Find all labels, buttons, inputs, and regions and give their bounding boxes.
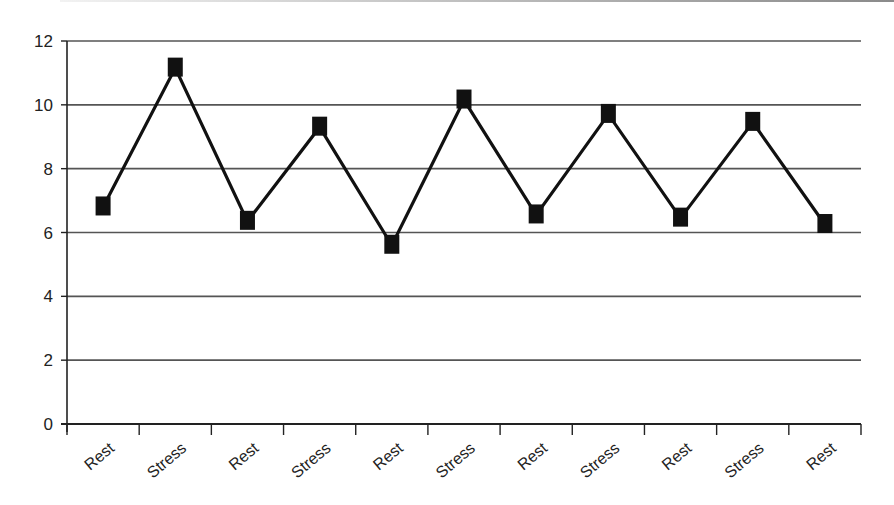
data-series xyxy=(96,58,833,254)
line-chart: 024681012 RestStressRestStressRestStress… xyxy=(0,0,894,505)
x-tick-label: Rest xyxy=(659,439,696,474)
x-tick-label: Rest xyxy=(225,439,262,474)
x-tick-label: Stress xyxy=(721,439,767,481)
data-point-marker xyxy=(240,211,255,230)
x-tick-label: Rest xyxy=(370,439,407,474)
data-point-marker xyxy=(817,214,832,233)
x-tick-label: Stress xyxy=(288,439,334,481)
data-point-marker xyxy=(312,117,327,136)
data-point-marker xyxy=(673,208,688,227)
data-point-marker xyxy=(457,90,472,109)
data-point-marker xyxy=(96,196,111,215)
y-tick-label: 12 xyxy=(34,32,53,51)
x-tick-label: Stress xyxy=(577,439,623,481)
data-point-marker xyxy=(384,235,399,254)
x-tick-label: Rest xyxy=(803,439,840,474)
y-axis-ticks: 024681012 xyxy=(34,32,67,434)
x-tick-label: Stress xyxy=(432,439,478,481)
y-tick-label: 6 xyxy=(44,224,53,243)
y-tick-label: 0 xyxy=(44,415,53,434)
x-tick-label: Rest xyxy=(81,439,118,474)
data-point-marker xyxy=(601,104,616,123)
x-axis-ticks: RestStressRestStressRestStressRestStress… xyxy=(67,424,861,481)
y-tick-label: 2 xyxy=(44,351,53,370)
data-point-marker xyxy=(529,204,544,223)
data-point-marker xyxy=(745,112,760,131)
x-tick-label: Rest xyxy=(514,439,551,474)
x-tick-label: Stress xyxy=(144,439,190,481)
y-tick-label: 4 xyxy=(44,287,53,306)
data-point-marker xyxy=(168,58,183,77)
y-tick-label: 10 xyxy=(34,96,53,115)
y-tick-label: 8 xyxy=(44,160,53,179)
